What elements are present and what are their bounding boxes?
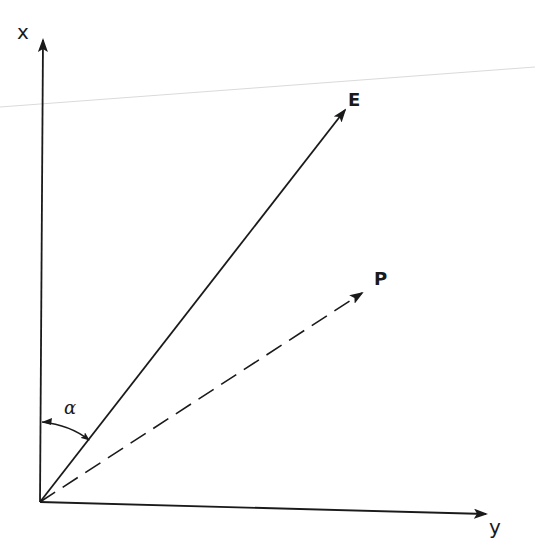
- alpha-arrowhead-left: [42, 418, 52, 425]
- x-axis-label: x: [17, 20, 29, 44]
- angle-alpha: α: [42, 397, 89, 440]
- vector-P: P: [40, 268, 387, 502]
- scan-artifact-line: [0, 67, 535, 107]
- vector-E-label: E: [348, 89, 360, 110]
- vector-diagram: x y E P α: [0, 0, 535, 558]
- x-axis: x: [17, 20, 43, 502]
- y-axis: y: [40, 502, 501, 539]
- y-axis-label: y: [489, 515, 501, 539]
- alpha-label: α: [64, 397, 76, 418]
- vector-P-label: P: [374, 268, 387, 289]
